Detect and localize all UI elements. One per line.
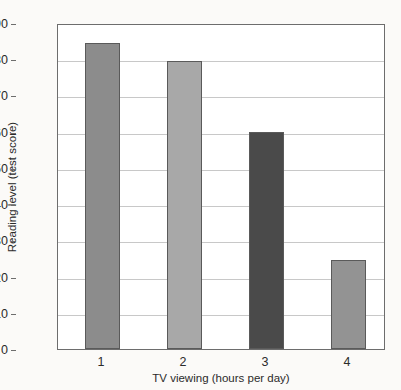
bar-chart-figure: Reading level (test score) 0102030405060…	[0, 0, 401, 390]
x-tick-label: 1	[71, 355, 131, 369]
y-tick-label: 20	[0, 271, 8, 285]
y-tick-label: 0	[0, 343, 8, 357]
bar	[85, 43, 120, 349]
bar	[249, 132, 284, 349]
y-tick-label: 10	[0, 307, 8, 321]
y-axis-title-text: Reading level (test score)	[6, 122, 18, 252]
y-tick-mark	[11, 241, 16, 242]
bar	[331, 260, 366, 349]
plot-area	[57, 24, 385, 350]
y-tick-mark	[11, 205, 16, 206]
y-tick-label: 70	[0, 89, 8, 103]
y-tick-label: 30	[0, 234, 8, 248]
x-tick-label: 2	[153, 355, 213, 369]
bar	[167, 61, 202, 349]
y-tick-label: 40	[0, 198, 8, 212]
bars-layer	[58, 25, 384, 349]
y-tick-mark	[11, 133, 16, 134]
y-tick-mark	[11, 24, 16, 25]
y-axis-title: Reading level (test score)	[3, 24, 21, 350]
y-tick-mark	[11, 169, 16, 170]
x-tick-label: 4	[317, 355, 377, 369]
y-tick-label: 50	[0, 162, 8, 176]
y-tick-mark	[11, 314, 16, 315]
y-tick-mark	[11, 96, 16, 97]
y-tick-label: 60	[0, 126, 8, 140]
y-tick-label: 90	[0, 17, 8, 31]
x-axis-title: TV viewing (hours per day)	[57, 372, 385, 384]
x-tick-label: 3	[235, 355, 295, 369]
y-tick-mark	[11, 350, 16, 351]
y-tick-mark	[11, 60, 16, 61]
y-tick-mark	[11, 278, 16, 279]
y-tick-label: 80	[0, 53, 8, 67]
